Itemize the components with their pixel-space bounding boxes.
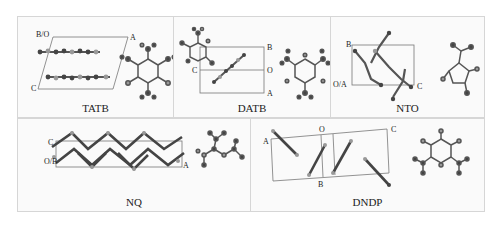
caption-tatb: TATB: [18, 102, 173, 114]
label-a: A: [183, 161, 189, 170]
caption-datb: DATB: [174, 102, 330, 114]
nto-molecule: [441, 43, 479, 95]
label-c: C: [48, 138, 53, 147]
label-a: A: [263, 137, 269, 146]
label-o-b: O/B: [44, 157, 57, 166]
panel-nq: C O/B A NQ: [17, 118, 251, 212]
caption-nq: NQ: [18, 196, 250, 208]
label-o-a: O/A: [333, 80, 347, 89]
caption-nto: NTO: [331, 102, 484, 114]
datb-molecule: [280, 49, 330, 99]
label-c: C: [391, 125, 396, 134]
panel-datb: B C O A DATB: [173, 16, 331, 118]
panel-tatb: B/O A C TATB: [17, 16, 174, 118]
label-c: C: [31, 84, 36, 93]
label-c: C: [417, 82, 422, 91]
label-a: A: [130, 33, 136, 42]
nq-molecule: [196, 131, 244, 167]
tatb-molecule: [120, 43, 175, 99]
label-b: B: [267, 43, 272, 52]
label-b: B: [318, 180, 323, 189]
caption-dndp: DNDP: [251, 196, 484, 208]
label-c: C: [192, 66, 197, 75]
label-b: B: [346, 40, 351, 49]
dndp-molecule: [413, 129, 469, 175]
panel-nto: B O/A C NTO: [330, 16, 485, 118]
label-o: O: [319, 125, 325, 134]
panel-dndp: A O C B DNDP: [250, 118, 485, 212]
label-a: A: [267, 89, 273, 98]
datb-side-molecule: [180, 27, 214, 65]
label-b-o: B/O: [36, 30, 50, 39]
label-o: O: [267, 66, 273, 75]
